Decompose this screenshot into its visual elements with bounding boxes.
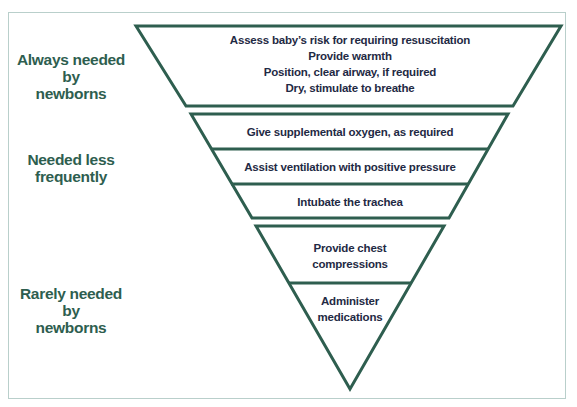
step-line: Position, clear airway, if required (200, 64, 500, 80)
step-line: Provide warmth (200, 48, 500, 64)
tier-label-less-frequently: Needed less frequently (10, 151, 132, 185)
tier-label-always: Always needed by newborns (10, 51, 132, 102)
step-line: compressions (280, 256, 420, 272)
step-line: Administer (280, 293, 420, 309)
tier-label-line: newborns (10, 85, 132, 102)
tier-label-line: Always needed by (10, 51, 132, 85)
tier-label-line: frequently (10, 168, 132, 185)
tier-label-line: newborns (10, 319, 132, 336)
step-supplemental-oxygen: Give supplemental oxygen, as required (200, 124, 500, 140)
tier-label-rarely: Rarely needed by newborns (10, 285, 132, 336)
tier-label-line: Rarely needed by (10, 285, 132, 319)
step-line: Provide chest (280, 240, 420, 256)
step-line: Dry, stimulate to breathe (200, 80, 500, 96)
step-intubate-trachea: Intubate the trachea (200, 194, 500, 210)
step-chest-compressions: Provide chest compressions (280, 240, 420, 272)
step-line: Assist ventilation with positive pressur… (200, 159, 500, 175)
step-line: Assess baby’s risk for requiring resusci… (200, 32, 500, 48)
step-line: Intubate the trachea (200, 194, 500, 210)
step-administer-medications: Administer medications (280, 293, 420, 325)
step-line: Give supplemental oxygen, as required (200, 124, 500, 140)
tier-label-line: Needed less (10, 151, 132, 168)
step-line: medications (280, 309, 420, 325)
step-initial-care: Assess baby’s risk for requiring resusci… (200, 32, 500, 96)
step-positive-pressure-ventilation: Assist ventilation with positive pressur… (200, 159, 500, 175)
